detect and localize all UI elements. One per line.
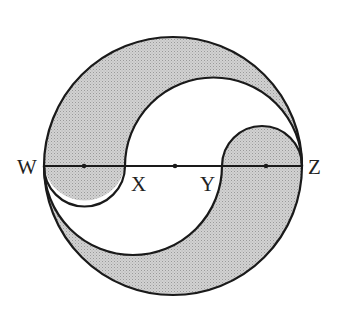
geometry-diagram: W X Y Z (0, 0, 341, 310)
point-center (173, 164, 178, 169)
point-wx-midpoint (82, 164, 87, 169)
label-w: W (17, 155, 37, 179)
label-y: Y (200, 172, 215, 196)
point-yz-midpoint (264, 164, 269, 169)
label-x: X (131, 172, 146, 196)
label-z: Z (308, 155, 321, 179)
